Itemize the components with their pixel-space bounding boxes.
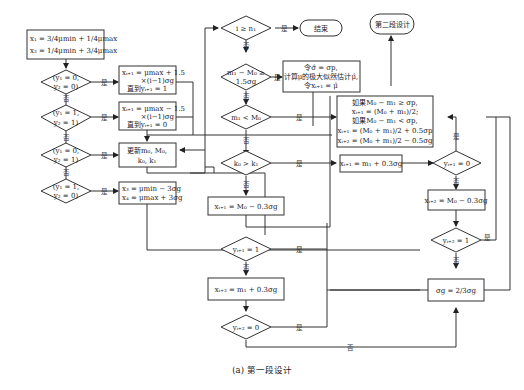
decision-y1-1-y2-0: (y₁ = 1, y₂ = 0) bbox=[41, 179, 91, 203]
decision-m1-lt-M0: m₁ < M₀ bbox=[221, 105, 271, 129]
svg-text:结束: 结束 bbox=[314, 24, 328, 33]
terminal-stage2: 第二段设计 bbox=[370, 14, 414, 34]
svg-text:如果M₀ − m₁ ≥ σp,: 如果M₀ − m₁ ≥ σp, bbox=[352, 98, 418, 107]
svg-text:xᵢ₊₁ = μmax + 1.5: xᵢ₊₁ = μmax + 1.5 bbox=[122, 69, 185, 77]
svg-text:令xᵢ₊₁ = μ̂: 令xᵢ₊₁ = μ̂ bbox=[304, 81, 338, 90]
labels-left-yes-no: 是 是 是 是 否 否 否 bbox=[63, 79, 108, 196]
label-yes: 是 bbox=[281, 25, 288, 33]
decision-y2-eq-1-right: yᵢ₊₂ = 1 bbox=[431, 228, 481, 252]
svg-text:k₀, k₁: k₀, k₁ bbox=[138, 157, 157, 165]
svg-text:i ≥ n₁: i ≥ n₁ bbox=[236, 25, 256, 33]
svg-text:y₂ = 0): y₂ = 0) bbox=[53, 192, 79, 200]
svg-text:×(i−1)σg: ×(i−1)σg bbox=[141, 113, 175, 121]
svg-text:直到yᵢ₊₁ = 0: 直到yᵢ₊₁ = 0 bbox=[127, 120, 168, 129]
flowchart-canvas: x₁ = 3/4μmin + 1/4μmax x₂ = 1/4μmin + 3/… bbox=[0, 0, 524, 390]
svg-text:yᵢ₊₁ = 0: yᵢ₊₁ = 0 bbox=[443, 160, 471, 168]
svg-text:xᵢ₊₁ = (M₀ + m₁)/2 + 0.5σp: xᵢ₊₁ = (M₀ + m₁)/2 + 0.5σp bbox=[338, 127, 433, 135]
process-x2-M0-minus: xᵢ₊₂ = M₀ − 0.3σg bbox=[425, 190, 488, 210]
process-x3-x4: x₃ = μmin − 3σg x₄ = μmax + 3σg bbox=[119, 182, 183, 204]
svg-text:x₂ = 1/4μmin + 3/4μmax: x₂ = 1/4μmin + 3/4μmax bbox=[30, 47, 117, 55]
svg-text:y₂ = 1): y₂ = 1) bbox=[53, 156, 79, 164]
process-x-M0-minus: xᵢ₊₁ = M₀ − 0.3σg bbox=[208, 197, 284, 215]
svg-text:y₂ = 1): y₂ = 1) bbox=[53, 119, 79, 127]
label-yes: 是 bbox=[296, 246, 303, 254]
svg-text:x₄ = μmax + 3σg: x₄ = μmax + 3σg bbox=[122, 194, 183, 202]
svg-text:y₂ = 0): y₂ = 0) bbox=[53, 83, 79, 91]
svg-text:k₀ > k₁: k₀ > k₁ bbox=[234, 160, 259, 168]
svg-text:否: 否 bbox=[63, 134, 70, 142]
label-no: 否 bbox=[243, 181, 250, 189]
label-no: 否 bbox=[453, 178, 460, 186]
terminal-end: 结束 bbox=[300, 20, 342, 36]
label-yes: 是 bbox=[296, 160, 303, 168]
svg-text:第二段设计: 第二段设计 bbox=[375, 20, 410, 29]
svg-text:否: 否 bbox=[63, 95, 70, 103]
svg-text:xᵢ₊₂ = (M₀ + m₁)/2 − 0.5σg: xᵢ₊₂ = (M₀ + m₁)/2 − 0.5σg bbox=[338, 137, 433, 145]
node-init: x₁ = 3/4μmin + 1/4μmax x₂ = 1/4μmin + 3/… bbox=[27, 30, 117, 59]
svg-text:yᵢ₊₂ = 1: yᵢ₊₂ = 1 bbox=[442, 237, 470, 245]
label-no: 否 bbox=[347, 344, 354, 352]
svg-text:是: 是 bbox=[101, 79, 108, 87]
svg-text:计算μ的极大似然估计μ̂,: 计算μ的极大似然估计μ̂, bbox=[284, 72, 358, 81]
decision-y-eq-1: yᵢ₊₁ = 1 bbox=[221, 237, 271, 261]
svg-text:更新m₀, M₀,: 更新m₀, M₀, bbox=[127, 146, 167, 155]
svg-text:xᵢ₊₂ = m₁ + 0.3σg: xᵢ₊₂ = m₁ + 0.3σg bbox=[215, 286, 278, 294]
svg-text:(y₁ = 1,: (y₁ = 1, bbox=[53, 109, 80, 117]
label-no: 否 bbox=[243, 42, 250, 50]
decision-k0-gt-k1: k₀ > k₁ bbox=[221, 151, 271, 175]
decision-y2-eq-0: yᵢ₊₂ = 0 bbox=[221, 315, 271, 339]
svg-text:xᵢ₊₁ = M₀ − 0.3σg: xᵢ₊₁ = M₀ − 0.3σg bbox=[215, 203, 278, 211]
svg-text:xᵢ₊₂ = M₀ − 0.3σg: xᵢ₊₂ = M₀ − 0.3σg bbox=[425, 197, 488, 205]
svg-text:yᵢ₊₁ = 1: yᵢ₊₁ = 1 bbox=[232, 246, 260, 254]
decision-y1-eq-0-right: yᵢ₊₁ = 0 bbox=[433, 151, 481, 175]
svg-text:x₃ = μmin − 3σg: x₃ = μmin − 3σg bbox=[122, 185, 182, 193]
process-x-minus: xᵢ₊₁ = μmax − 1.5 ×(i−1)σg 直到yᵢ₊₁ = 0 bbox=[119, 102, 185, 130]
label-yes: 是 bbox=[296, 114, 303, 122]
label-no: 否 bbox=[453, 257, 460, 265]
svg-text:如果M₀ − m₁ < σp,: 如果M₀ − m₁ < σp, bbox=[352, 116, 418, 125]
svg-text:(y₁ = 1,: (y₁ = 1, bbox=[53, 183, 80, 191]
label-no: 否 bbox=[243, 137, 250, 145]
svg-text:x₁ = 3/4μmin + 1/4μmax: x₁ = 3/4μmin + 1/4μmax bbox=[30, 35, 117, 43]
svg-text:(y₁ = 0,: (y₁ = 0, bbox=[53, 147, 80, 155]
svg-text:xᵢ₊₁ = m₁ + 0.3σg: xᵢ₊₁ = m₁ + 0.3σg bbox=[340, 160, 403, 168]
svg-text:m₁ − M₀ ≥: m₁ − M₀ ≥ bbox=[227, 69, 265, 77]
svg-text:直到yᵢ₊₁ = 1: 直到yᵢ₊₁ = 1 bbox=[127, 84, 168, 93]
svg-text:xᵢ₊₁ = μmax − 1.5: xᵢ₊₁ = μmax − 1.5 bbox=[122, 105, 185, 113]
svg-text:否: 否 bbox=[63, 169, 70, 177]
process-x-m1-plus: xᵢ₊₂ = m₁ + 0.3σg bbox=[208, 278, 284, 300]
process-midpoint: 如果M₀ − m₁ ≥ σp, xᵢ₊₁ = (M₀ + m₁)/2; 如果M₀… bbox=[337, 96, 433, 147]
label-yes: 是 bbox=[274, 74, 281, 82]
svg-text:(y₁ = 0,: (y₁ = 0, bbox=[53, 74, 80, 82]
process-sigma-update: σg = 2/3σg bbox=[428, 279, 484, 301]
process-x-m1-plus-right: xᵢ₊₁ = m₁ + 0.3σg bbox=[340, 155, 403, 172]
svg-text:σg = 2/3σg: σg = 2/3σg bbox=[436, 287, 477, 295]
label-no: 否 bbox=[243, 93, 250, 101]
label-yes: 是 bbox=[453, 133, 460, 141]
decision-i-ge-n1: i ≥ n₁ bbox=[221, 16, 271, 40]
process-mle-estimate: 令σ̂ = σp, 计算μ的极大似然估计μ̂, 令xᵢ₊₁ = μ̂ bbox=[283, 61, 360, 92]
svg-text:m₁ < M₀: m₁ < M₀ bbox=[231, 114, 261, 122]
label-yes: 是 bbox=[484, 234, 491, 242]
process-update-m0: 更新m₀, M₀, k₀, k₁ bbox=[119, 143, 176, 167]
process-x-plus: xᵢ₊₁ = μmax + 1.5 ×(i−1)σg 直到yᵢ₊₁ = 1 bbox=[119, 66, 185, 94]
figure-caption: (a) 第一段设计 bbox=[232, 365, 291, 375]
svg-text:令σ̂ = σp,: 令σ̂ = σp, bbox=[304, 63, 338, 72]
svg-text:1.5σg: 1.5σg bbox=[236, 78, 257, 86]
decision-y1-0-y2-0: (y₁ = 0, y₂ = 0) bbox=[41, 70, 91, 94]
label-yes: 是 bbox=[296, 324, 303, 332]
decision-m1-minus-M0: m₁ − M₀ ≥ 1.5σg bbox=[221, 64, 271, 90]
svg-text:×(i−1)σg: ×(i−1)σg bbox=[141, 77, 175, 85]
svg-text:yᵢ₊₂ = 0: yᵢ₊₂ = 0 bbox=[232, 324, 260, 332]
svg-text:是: 是 bbox=[101, 114, 108, 122]
svg-text:是: 是 bbox=[101, 152, 108, 160]
label-no: 否 bbox=[243, 264, 250, 272]
svg-text:是: 是 bbox=[101, 188, 108, 196]
svg-text:xᵢ₊₁ = (M₀ + m₁)/2;: xᵢ₊₁ = (M₀ + m₁)/2; bbox=[352, 108, 419, 116]
decision-y1-1-y2-1: (y₁ = 1, y₂ = 1) bbox=[41, 105, 91, 131]
decision-y1-0-y2-1: (y₁ = 0, y₂ = 1) bbox=[41, 143, 91, 167]
